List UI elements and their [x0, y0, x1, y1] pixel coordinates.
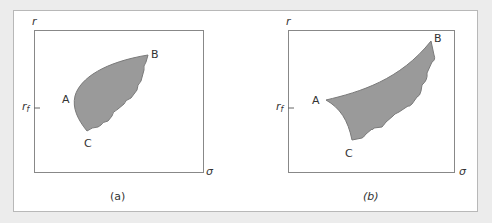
- caption-a: (a): [110, 190, 125, 203]
- point-label-b-C: C: [345, 147, 353, 160]
- y-axis-label-a: r: [32, 15, 38, 28]
- rf-label-a: rf: [22, 100, 31, 114]
- caption-b: (b): [363, 190, 379, 203]
- point-label-a-A: A: [62, 93, 70, 106]
- point-label-b-B: B: [434, 32, 442, 45]
- panel-b: r σ rf A B C (b): [276, 15, 467, 203]
- x-axis-label-b: σ: [459, 165, 467, 178]
- point-label-a-C: C: [84, 137, 92, 150]
- x-axis-label-a: σ: [206, 165, 214, 178]
- rf-label-b: rf: [276, 100, 285, 114]
- point-label-a-B: B: [151, 48, 159, 61]
- y-axis-label-b: r: [286, 15, 292, 28]
- panel-a: r σ rf A B C (a): [22, 15, 214, 203]
- point-label-b-A: A: [312, 94, 320, 107]
- figure-canvas: r σ rf A B C (a) r σ rf A B C (b): [0, 0, 492, 223]
